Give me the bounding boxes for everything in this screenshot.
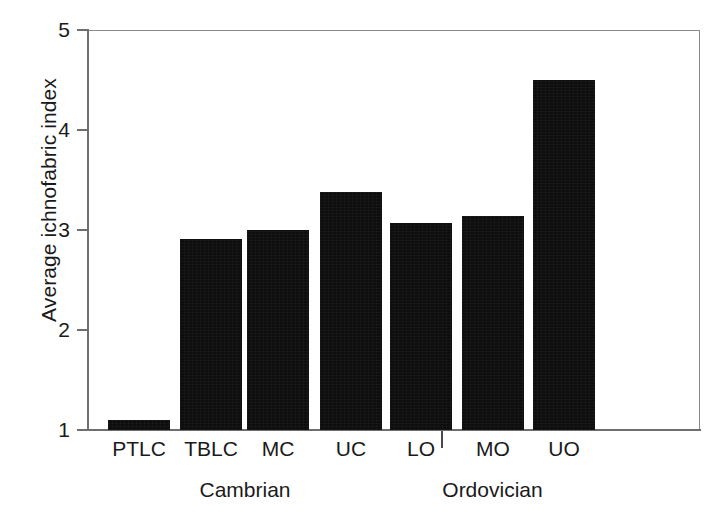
y-tick-mark xyxy=(77,129,88,131)
group-label-cambrian: Cambrian xyxy=(135,478,355,502)
x-axis-line xyxy=(87,429,701,431)
y-tick-label: 2 xyxy=(44,319,70,340)
group-label-ordovician: Ordovician xyxy=(383,478,603,502)
y-tick-label: 3 xyxy=(44,219,70,240)
x-label-uo: UO xyxy=(509,437,619,461)
y-tick-mark xyxy=(77,429,88,431)
y-tick-label: 4 xyxy=(44,119,70,140)
y-tick-label: 5 xyxy=(44,19,70,40)
y-tick-mark xyxy=(77,229,88,231)
y-tick-label: 1 xyxy=(44,419,70,440)
y-tick-mark xyxy=(77,29,88,31)
period-separator-tick xyxy=(441,431,443,448)
plot-area xyxy=(88,30,700,430)
y-tick-mark xyxy=(77,329,88,331)
ichnofabric-index-bar-chart: Average ichnofabric index 54321 PTLCTBLC… xyxy=(0,0,716,522)
